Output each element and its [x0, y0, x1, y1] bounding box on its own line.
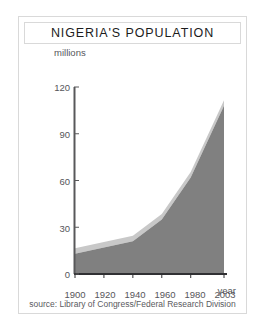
chart-panel: NIGERIA'S POPULATION millions 120 90 60 …: [18, 16, 247, 314]
plot-area: millions 120 90 60 30 0 1900 1920 1940 1…: [19, 45, 246, 285]
x-axis-label: year: [218, 285, 236, 296]
area-chart-svg: [19, 45, 246, 285]
source-caption: source: Library of Congress/Federal Rese…: [19, 299, 246, 309]
page-title: NIGERIA'S POPULATION: [51, 26, 214, 40]
chart-title-bar: NIGERIA'S POPULATION: [24, 22, 241, 44]
